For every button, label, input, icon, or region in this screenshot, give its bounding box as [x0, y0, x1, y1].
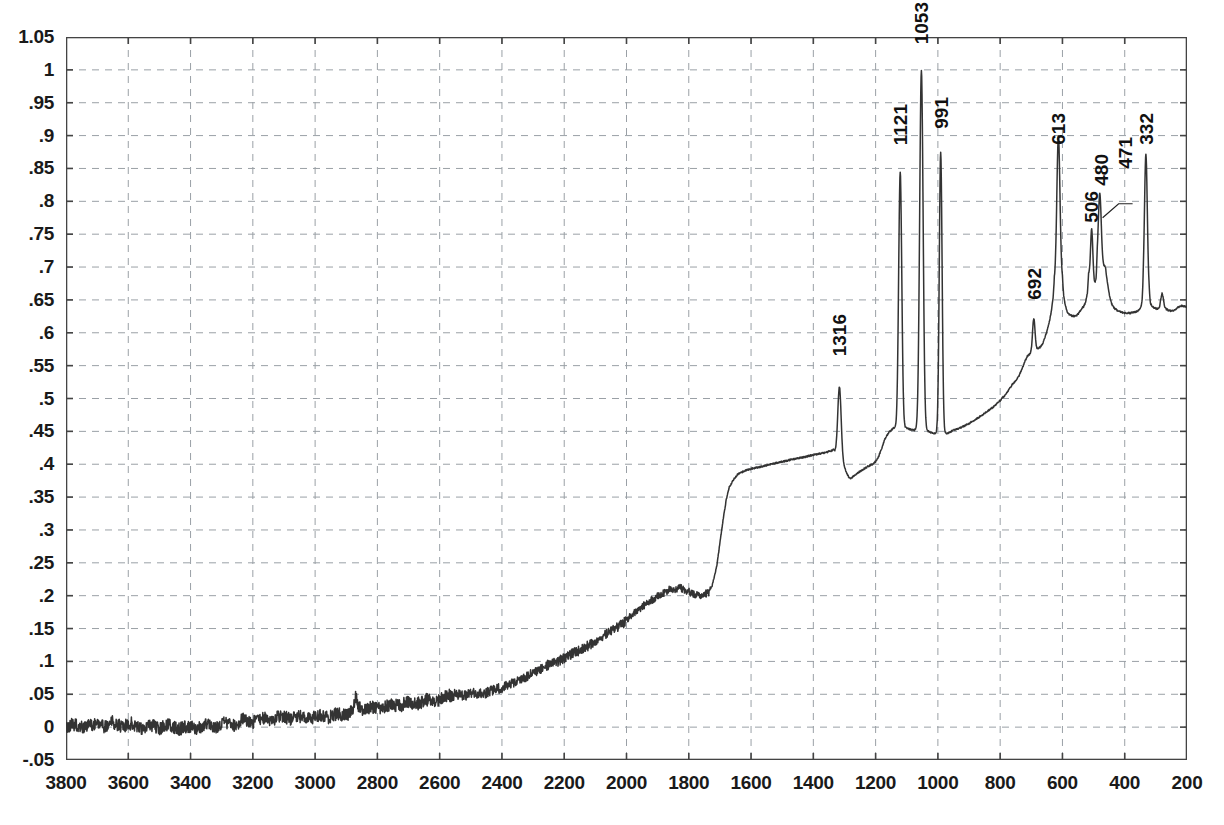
- y-tick-1p05: 1.05: [0, 26, 54, 48]
- y-tick-0p9: .9: [0, 125, 54, 147]
- y-tick-0p1: .1: [0, 650, 54, 672]
- x-tick-1000: 1000: [917, 772, 958, 794]
- y-tick-0p95: .95: [0, 92, 54, 114]
- y-tick-0p4: .4: [0, 453, 54, 475]
- x-tick-3800: 3800: [45, 772, 86, 794]
- y-tick-0p25: .25: [0, 552, 54, 574]
- y-tick-neg0p05: -.05: [0, 749, 54, 771]
- plot-area: [66, 37, 1187, 760]
- y-tick-0p65: .65: [0, 289, 54, 311]
- y-tick-0p6: .6: [0, 322, 54, 344]
- x-tick-200: 200: [1172, 772, 1203, 794]
- peak-label-692: 692: [1024, 268, 1046, 300]
- x-tick-3200: 3200: [232, 772, 273, 794]
- spectrum-chart-root: 1.051.95.9.85.8.75.7.65.6.55.5.45.4.35.3…: [0, 0, 1224, 825]
- x-tick-1600: 1600: [731, 772, 772, 794]
- y-tick-0p15: .15: [0, 618, 54, 640]
- x-tick-400: 400: [1109, 772, 1140, 794]
- peak-label-991: 991: [931, 97, 953, 129]
- x-tick-2800: 2800: [357, 772, 398, 794]
- peak-label-471: 471: [1115, 137, 1137, 169]
- y-tick-0p75: .75: [0, 223, 54, 245]
- y-tick-1: 1: [0, 59, 54, 81]
- x-tick-1200: 1200: [855, 772, 896, 794]
- x-tick-800: 800: [985, 772, 1016, 794]
- y-tick-0p2: .2: [0, 585, 54, 607]
- x-tick-600: 600: [1047, 772, 1078, 794]
- peak-label-506: 506: [1081, 191, 1103, 223]
- x-tick-1800: 1800: [668, 772, 709, 794]
- peak-label-1053: 1053: [911, 2, 933, 44]
- x-tick-2000: 2000: [606, 772, 647, 794]
- y-tick-0p7: .7: [0, 256, 54, 278]
- grid-layer: [66, 37, 1187, 760]
- y-tick-0p5: .5: [0, 388, 54, 410]
- y-tick-0p05: .05: [0, 683, 54, 705]
- y-tick-0p85: .85: [0, 157, 54, 179]
- y-tick-0p45: .45: [0, 420, 54, 442]
- x-tick-2400: 2400: [481, 772, 522, 794]
- y-tick-0: 0: [0, 716, 54, 738]
- peak-label-1121: 1121: [890, 104, 912, 145]
- x-tick-2600: 2600: [419, 772, 460, 794]
- y-tick-0p3: .3: [0, 519, 54, 541]
- y-tick-0p35: .35: [0, 486, 54, 508]
- spectrum-svg: [66, 37, 1187, 760]
- x-tick-3400: 3400: [170, 772, 211, 794]
- y-tick-0p8: .8: [0, 190, 54, 212]
- peak-label-332: 332: [1136, 113, 1158, 145]
- annotation-leader-lines: [1103, 204, 1133, 218]
- x-tick-3600: 3600: [108, 772, 149, 794]
- x-tick-1400: 1400: [793, 772, 834, 794]
- x-tick-3000: 3000: [295, 772, 336, 794]
- x-tick-2200: 2200: [544, 772, 585, 794]
- peak-label-1316: 1316: [829, 314, 851, 356]
- peak-label-613: 613: [1048, 113, 1070, 145]
- y-tick-0p55: .55: [0, 355, 54, 377]
- peak-label-480: 480: [1091, 154, 1113, 186]
